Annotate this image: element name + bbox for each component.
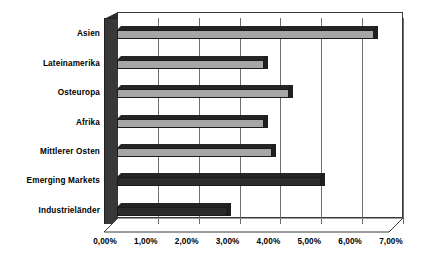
y-axis-label-asien: Asien [0, 30, 100, 38]
bar-top-face [117, 144, 276, 148]
bar-top-face [117, 115, 268, 119]
bar-asien [117, 26, 378, 39]
gridline [321, 18, 322, 224]
x-tick-label: 7,00% [379, 238, 403, 246]
y-axis-label-emerging-markets: Emerging Markets [0, 177, 100, 185]
y-axis-label-osteuropa: Osteuropa [0, 89, 100, 97]
bar-face [117, 60, 264, 69]
bar-face [117, 177, 321, 186]
bar-face [117, 89, 289, 98]
bar-face [117, 119, 264, 128]
bar-industrieländer [117, 203, 231, 216]
y-axis-label-industrieländer: Industrieländer [0, 207, 100, 215]
gridline [280, 18, 281, 224]
bar-mittlerer-osten [117, 144, 276, 157]
plot-frame [104, 12, 404, 232]
bar-end-cap [227, 203, 231, 216]
bar-end-cap [289, 85, 293, 98]
bar-end-cap [272, 144, 276, 157]
bar-afrika [117, 115, 268, 128]
x-tick-label: 1,00% [134, 238, 158, 246]
x-axis: 0,00%1,00%2,00%3,00%4,00%5,00%6,00%7,00% [104, 232, 414, 258]
bar-face [117, 207, 227, 216]
bar-chart: AsienLateinamerikaOsteuropaAfrikaMittler… [0, 0, 422, 260]
bar-end-cap [264, 56, 268, 69]
bar-osteuropa [117, 85, 293, 98]
y-axis-label-afrika: Afrika [0, 119, 100, 127]
bar-emerging-markets [117, 173, 325, 186]
plot-area [117, 18, 403, 224]
bar-face [117, 30, 374, 39]
bar-top-face [117, 203, 231, 207]
gridline [362, 18, 363, 224]
bar-top-face [117, 173, 325, 177]
y-axis-category-labels: AsienLateinamerikaOsteuropaAfrikaMittler… [0, 14, 104, 228]
x-tick-label: 4,00% [257, 238, 281, 246]
y-axis-label-mittlerer-osten: Mittlerer Osten [0, 148, 100, 156]
bar-end-cap [321, 173, 325, 186]
bar-lateinamerika [117, 56, 268, 69]
bar-end-cap [374, 26, 378, 39]
bar-end-cap [264, 115, 268, 128]
bar-face [117, 148, 272, 157]
bar-top-face [117, 56, 268, 60]
gridline [403, 18, 404, 224]
y-axis-label-lateinamerika: Lateinamerika [0, 60, 100, 68]
x-tick-label: 6,00% [338, 238, 362, 246]
x-tick-label: 0,00% [93, 238, 117, 246]
x-tick-label: 5,00% [297, 238, 321, 246]
plot-left-wall [104, 18, 118, 224]
x-tick-label: 3,00% [216, 238, 240, 246]
bar-top-face [117, 85, 293, 89]
x-tick-label: 2,00% [175, 238, 199, 246]
bar-top-face [117, 26, 378, 30]
